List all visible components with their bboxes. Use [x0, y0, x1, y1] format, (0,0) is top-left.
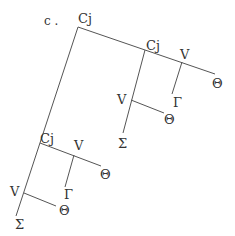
- node-gamma-upper: Γ: [173, 95, 182, 110]
- node-v-lower-right: V: [73, 138, 84, 153]
- node-theta-lower-right: Θ: [100, 167, 111, 182]
- edge-v-lower-to-gamma: [65, 155, 74, 187]
- node-gamma-lower: Γ: [64, 187, 73, 202]
- node-theta-upper-mid: Θ: [164, 112, 175, 127]
- node-theta-lower-left: Θ: [59, 203, 70, 218]
- node-root-cj: Cj: [78, 11, 92, 26]
- node-sigma-lower: Σ: [15, 217, 24, 232]
- node-v-upper-mid: V: [116, 92, 127, 107]
- node-v-lower-left: V: [9, 184, 20, 199]
- node-cj-lower: Cj: [40, 131, 54, 146]
- tree-diagram: c . Cj Cj V Θ Γ V Θ Σ Cj V Θ Γ V Θ Σ: [0, 0, 235, 236]
- edge-v-lower-left-to-theta: [24, 193, 56, 206]
- node-cj-upper: Cj: [146, 38, 160, 53]
- edge-v-upper-to-gamma: [172, 62, 182, 94]
- node-v-upper-right: V: [179, 47, 190, 62]
- edge-cj-lower-to-theta: [40, 143, 101, 166]
- node-sigma-upper: Σ: [118, 136, 127, 151]
- figure-label: c .: [44, 14, 58, 28]
- edge-v-upper-mid-to-theta: [131, 100, 164, 113]
- node-theta-upper-right: Θ: [212, 76, 223, 91]
